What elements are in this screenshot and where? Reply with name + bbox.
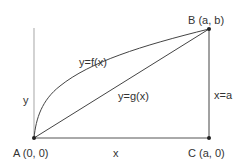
point-b	[207, 27, 211, 31]
point-a-label: A (0, 0)	[13, 147, 48, 159]
point-c-label: C (a, 0)	[188, 147, 225, 159]
y-axis-label: y	[23, 94, 29, 106]
curve-g-label: y=g(x)	[118, 90, 149, 102]
point-a	[32, 136, 36, 140]
x-axis-label: x	[113, 147, 119, 159]
diagram-canvas: A (0, 0) B (a, b) C (a, 0) y x y=f(x) y=…	[0, 0, 248, 165]
curve-f-label: y=f(x)	[79, 56, 107, 68]
vertical-line-label: x=a	[214, 89, 233, 101]
curve-g	[34, 29, 209, 138]
point-c	[207, 136, 211, 140]
point-b-label: B (a, b)	[188, 14, 224, 26]
